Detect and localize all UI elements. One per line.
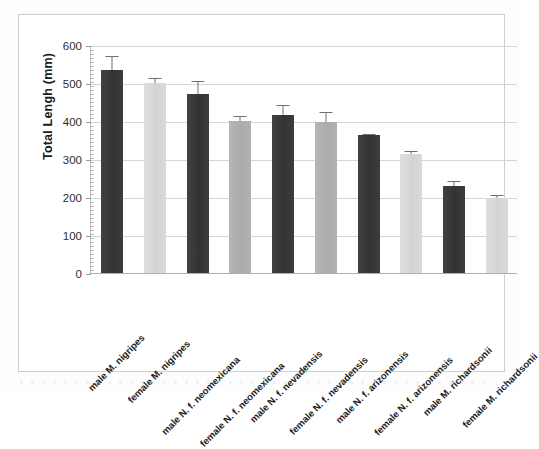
error-bar-cap-upper xyxy=(149,78,162,79)
y-axis-tick-label: 300 xyxy=(63,154,82,166)
error-bar-stem xyxy=(197,81,198,94)
y-axis-tick-label: 200 xyxy=(63,192,82,204)
bar-slot[interactable] xyxy=(229,45,251,273)
bar[interactable] xyxy=(229,121,251,273)
y-axis-tick-label: 0 xyxy=(76,268,82,280)
bar-slot[interactable] xyxy=(101,45,123,273)
bar[interactable] xyxy=(443,186,465,273)
error-bar-cap-upper xyxy=(362,134,375,135)
bar-slot[interactable] xyxy=(486,45,508,273)
error-bar-cap-upper xyxy=(447,181,460,182)
bar[interactable] xyxy=(187,94,209,273)
y-axis-tick-label: 400 xyxy=(63,116,82,128)
error-bar-stem xyxy=(283,105,284,115)
error-bar-stem xyxy=(325,112,326,122)
error-bar-cap-upper xyxy=(490,195,503,196)
chart-frame: Total Lengh (mm) 0100200300400500600 mal… xyxy=(18,14,505,372)
y-axis-tick xyxy=(86,46,91,47)
y-axis-tick xyxy=(86,122,91,123)
bar-slot[interactable] xyxy=(358,45,380,273)
error-bar-cap-upper xyxy=(319,112,332,113)
y-axis-tick xyxy=(86,160,91,161)
scan-artifact xyxy=(20,381,490,384)
bar-slot[interactable] xyxy=(400,45,422,273)
y-axis-tick-label: 600 xyxy=(63,40,82,52)
y-axis-tick xyxy=(86,274,91,275)
error-bar-cap-upper xyxy=(106,56,119,57)
y-axis-tick xyxy=(86,236,91,237)
bar[interactable] xyxy=(144,83,166,273)
plot-area: 0100200300400500600 xyxy=(90,46,517,274)
y-axis-title: Total Lengh (mm) xyxy=(41,53,55,160)
y-axis-tick xyxy=(86,84,91,85)
error-bar-cap-upper xyxy=(277,105,290,106)
y-axis-tick-label: 100 xyxy=(63,230,82,242)
error-bar-cap-upper xyxy=(405,151,418,152)
error-bar-cap-upper xyxy=(234,116,247,117)
y-axis-tick-label: 500 xyxy=(63,78,82,90)
bar[interactable] xyxy=(400,154,422,273)
y-axis-tick xyxy=(86,198,91,199)
bar-slot[interactable] xyxy=(187,45,209,273)
bar-slot[interactable] xyxy=(144,45,166,273)
bar[interactable] xyxy=(358,135,380,273)
bar-slot[interactable] xyxy=(443,45,465,273)
bar[interactable] xyxy=(272,115,294,273)
bar[interactable] xyxy=(315,122,337,273)
bar-slot[interactable] xyxy=(272,45,294,273)
bar[interactable] xyxy=(486,198,508,273)
bar[interactable] xyxy=(101,70,123,273)
error-bar-stem xyxy=(112,56,113,70)
bar-slot[interactable] xyxy=(315,45,337,273)
error-bar-cap-upper xyxy=(191,81,204,82)
